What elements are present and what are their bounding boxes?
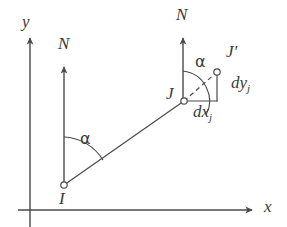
- north-label-at-i: N: [58, 35, 69, 52]
- north-label-at-j: N: [176, 6, 187, 23]
- geometry-diagram-figure: x y N N I J J' α α dxj dyj: [0, 0, 287, 227]
- point-label-i: I: [59, 190, 65, 207]
- line-j-to-jprime-dashed: [184, 72, 217, 101]
- diagram-canvas: [0, 0, 287, 227]
- point-marker-jprime: [214, 69, 220, 75]
- point-marker-j: [181, 98, 187, 104]
- dx-increment-label: dxj: [193, 103, 212, 123]
- point-label-j: J: [166, 85, 174, 102]
- dy-increment-label: dyj: [231, 74, 250, 94]
- point-marker-i: [61, 182, 67, 188]
- dx-increment-base: dx: [193, 102, 209, 121]
- dy-increment-base: dy: [231, 73, 247, 92]
- dy-increment-subscript: j: [247, 82, 250, 94]
- x-axis-label: x: [264, 198, 272, 215]
- angle-label-alpha-at-j: α: [195, 54, 206, 70]
- y-axis-label: y: [22, 13, 30, 30]
- angle-label-alpha-at-i: α: [80, 131, 91, 147]
- dx-increment-subscript: j: [209, 111, 212, 123]
- point-label-jprime: J': [226, 43, 237, 60]
